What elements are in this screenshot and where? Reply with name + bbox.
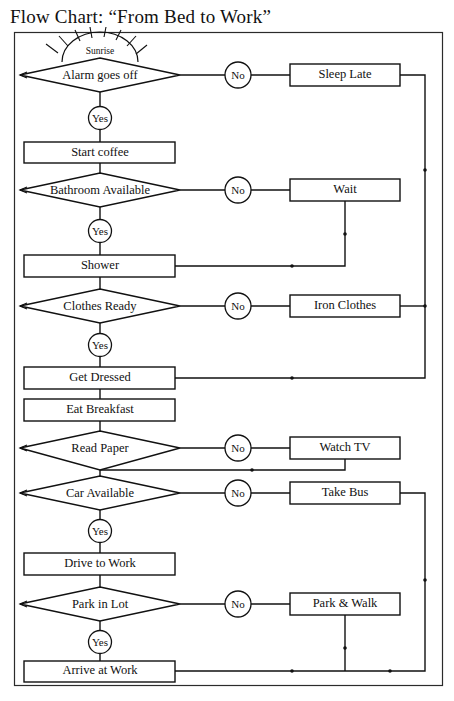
node-label: Car Available <box>66 486 135 500</box>
branch-no-read-paper[interactable]: No <box>225 435 251 461</box>
branch-yes-park[interactable]: Yes <box>89 631 112 654</box>
node-alarm-goes-off[interactable]: Alarm goes off <box>20 58 180 92</box>
branch-label: No <box>231 598 245 610</box>
node-iron-clothes[interactable]: Iron Clothes <box>290 295 400 317</box>
branch-label: Yes <box>92 339 108 351</box>
node-eat-breakfast[interactable]: Eat Breakfast <box>24 399 175 421</box>
branch-yes-alarm[interactable]: Yes <box>89 107 112 130</box>
branch-label: No <box>231 184 245 196</box>
node-label: Start coffee <box>71 145 129 159</box>
node-watch-tv[interactable]: Watch TV <box>290 437 400 459</box>
node-get-dressed[interactable]: Get Dressed <box>24 367 175 389</box>
branch-no-clothes[interactable]: No <box>225 293 251 319</box>
loop-ironclothes-to-getdressed <box>400 304 427 308</box>
loop-parkwalk-to-arrive <box>343 615 347 671</box>
node-shower[interactable]: Shower <box>24 255 175 277</box>
node-label: Drive to Work <box>64 556 136 570</box>
branch-label: Yes <box>92 636 108 648</box>
node-label: Watch TV <box>319 440 370 454</box>
branch-label: No <box>231 487 245 499</box>
branch-yes-bathroom[interactable]: Yes <box>89 220 112 243</box>
node-read-paper[interactable]: Read Paper <box>20 431 180 470</box>
node-label: Sleep Late <box>318 67 372 81</box>
node-start-coffee[interactable]: Start coffee <box>24 142 175 163</box>
sunrise-label: Sunrise <box>86 46 115 56</box>
node-drive-to-work[interactable]: Drive to Work <box>24 553 175 575</box>
branch-no-bathroom[interactable]: No <box>225 177 251 203</box>
branch-label: No <box>231 442 245 454</box>
node-label: Get Dressed <box>69 370 131 384</box>
node-label: Read Paper <box>71 441 129 455</box>
node-park-in-lot[interactable]: Park in Lot <box>20 587 180 621</box>
branch-no-park[interactable]: No <box>225 591 251 617</box>
node-label: Shower <box>81 258 120 272</box>
node-label: Iron Clothes <box>314 298 376 312</box>
branch-label: Yes <box>92 225 108 237</box>
node-label: Arrive at Work <box>62 663 138 677</box>
node-take-bus[interactable]: Take Bus <box>290 482 400 504</box>
node-wait[interactable]: Wait <box>290 179 400 201</box>
node-car-available[interactable]: Car Available <box>20 476 180 510</box>
no-branch-connectors <box>180 75 290 604</box>
branch-label: No <box>231 300 245 312</box>
loop-wait-to-shower <box>175 201 347 268</box>
loop-takebus-to-arrive <box>175 493 427 673</box>
loop-sleeplate-to-getdressed <box>175 75 427 380</box>
node-sleep-late[interactable]: Sleep Late <box>290 64 400 86</box>
branch-no-car[interactable]: No <box>225 480 251 506</box>
flowchart-page: Flow Chart: “From Bed to Work” Sunrise <box>0 0 454 701</box>
node-label: Park & Walk <box>313 596 378 610</box>
branch-label: Yes <box>92 112 108 124</box>
node-label: Park in Lot <box>72 597 129 611</box>
loop-watchtv-to-readpaper <box>100 459 345 472</box>
node-label: Bathroom Available <box>50 183 151 197</box>
node-label: Wait <box>333 182 357 196</box>
node-label: Clothes Ready <box>63 299 137 313</box>
node-bathroom-available[interactable]: Bathroom Available <box>20 173 180 207</box>
node-clothes-ready[interactable]: Clothes Ready <box>20 289 180 323</box>
node-label: Eat Breakfast <box>66 402 134 416</box>
node-label: Take Bus <box>322 485 369 499</box>
flowchart-canvas: Sunrise <box>0 0 454 701</box>
branch-no-alarm[interactable]: No <box>225 62 251 88</box>
branch-label: Yes <box>92 525 108 537</box>
branch-label: No <box>231 69 245 81</box>
chart-border <box>15 33 443 686</box>
node-park-and-walk[interactable]: Park & Walk <box>290 593 400 615</box>
branch-yes-clothes[interactable]: Yes <box>89 334 112 357</box>
node-arrive-at-work[interactable]: Arrive at Work <box>24 661 175 682</box>
node-label: Alarm goes off <box>62 68 138 82</box>
branch-yes-car[interactable]: Yes <box>89 520 112 543</box>
